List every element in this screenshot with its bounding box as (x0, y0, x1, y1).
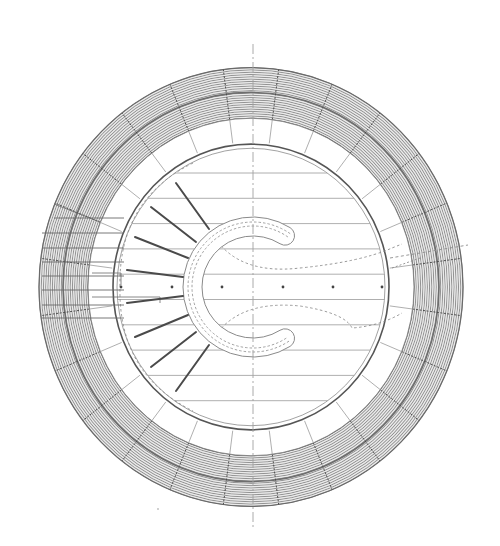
plan-svg (0, 0, 500, 546)
marker-dot (381, 286, 384, 289)
stray-mark (157, 508, 159, 510)
plan-drawing (0, 0, 500, 546)
marker-dot (221, 286, 224, 289)
marker-dot (171, 286, 174, 289)
marker-dot (332, 286, 335, 289)
marker-dot (282, 286, 285, 289)
floor-outline-outer (113, 144, 389, 430)
marker-dot (120, 286, 123, 289)
